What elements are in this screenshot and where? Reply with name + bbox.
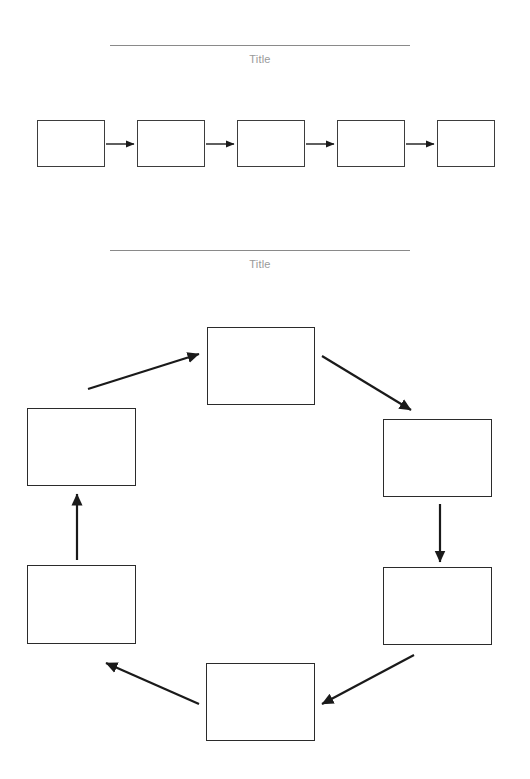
cycle-box-5[interactable] bbox=[27, 565, 136, 644]
process-box-1[interactable] bbox=[37, 120, 105, 167]
section-title-cycle-process: Title bbox=[110, 250, 410, 270]
cycle-box-6[interactable] bbox=[27, 408, 136, 486]
section-title-label: Title bbox=[110, 53, 410, 65]
cycle-box-2[interactable] bbox=[383, 419, 492, 497]
cycle-arrow-4 bbox=[106, 663, 199, 704]
cycle-box-3[interactable] bbox=[383, 567, 492, 645]
diagram-page: Title Title bbox=[0, 0, 530, 779]
cycle-box-1[interactable] bbox=[207, 327, 315, 405]
title-divider-rule bbox=[110, 250, 410, 251]
cycle-box-4[interactable] bbox=[206, 663, 315, 741]
cycle-arrow-3 bbox=[322, 655, 414, 704]
section-title-label: Title bbox=[110, 258, 410, 270]
process-box-4[interactable] bbox=[337, 120, 405, 167]
section-title-linear-process: Title bbox=[110, 45, 410, 65]
cycle-arrow-6 bbox=[88, 354, 199, 389]
cycle-arrow-1 bbox=[322, 356, 411, 410]
process-box-3[interactable] bbox=[237, 120, 305, 167]
process-box-2[interactable] bbox=[137, 120, 205, 167]
title-divider-rule bbox=[110, 45, 410, 46]
process-box-5[interactable] bbox=[437, 120, 495, 167]
